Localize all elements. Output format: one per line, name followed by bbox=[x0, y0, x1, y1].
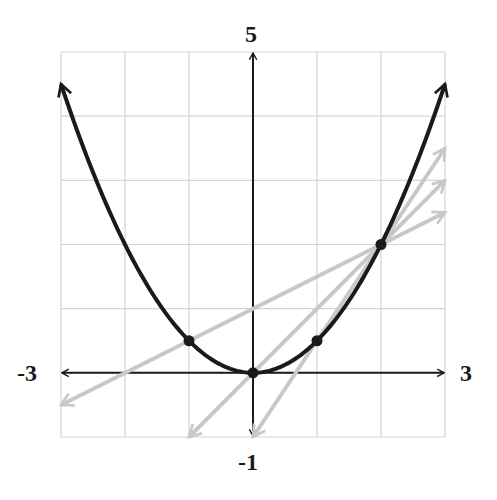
x-min-label: -3 bbox=[17, 361, 37, 385]
chart-plot bbox=[0, 0, 497, 500]
point-marker bbox=[376, 239, 387, 250]
point-marker bbox=[248, 367, 259, 378]
point-marker bbox=[312, 335, 323, 346]
x-max-label: 3 bbox=[460, 361, 472, 385]
y-max-label: 5 bbox=[245, 22, 257, 46]
point-marker bbox=[184, 335, 195, 346]
y-min-label: -1 bbox=[238, 450, 258, 474]
